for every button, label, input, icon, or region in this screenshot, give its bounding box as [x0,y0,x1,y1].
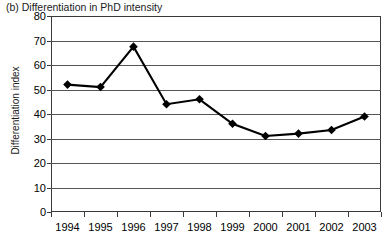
x-tick-label: 2002 [319,221,343,233]
chart-title: (b) Differentiation in PhD intensity [6,1,162,13]
x-tick-label: 1997 [154,221,178,233]
chart-figure: (b) Differentiation in PhD intensity Dif… [0,0,386,250]
data-point-marker [162,100,171,109]
data-point-marker [294,129,303,138]
x-tick-mark [51,212,52,217]
y-tick-label: 60 [34,59,46,71]
x-tick-mark [249,212,250,217]
x-tick-label: 2000 [253,221,277,233]
x-tick-mark [315,212,316,217]
y-tick-label: 0 [40,206,46,218]
data-point-marker [261,132,270,141]
y-tick-label: 10 [34,182,46,194]
series-line-chart [51,16,381,212]
x-tick-label: 1999 [220,221,244,233]
series-polyline [68,47,365,136]
x-tick-label: 1995 [88,221,112,233]
y-axis-label: Differentiation index [10,41,21,181]
y-tick-label: 40 [34,108,46,120]
y-tick-label: 70 [34,35,46,47]
x-tick-mark [348,212,349,217]
y-tick-label: 50 [34,84,46,96]
x-tick-mark [183,212,184,217]
series-markers [63,42,369,140]
x-tick-mark [150,212,151,217]
x-tick-label: 2003 [352,221,376,233]
y-tick-label: 20 [34,157,46,169]
data-point-marker [360,112,369,121]
x-tick-mark [84,212,85,217]
data-point-marker [327,126,336,135]
x-tick-mark [282,212,283,217]
x-tick-mark [381,212,382,217]
x-tick-label: 1998 [187,221,211,233]
x-tick-mark [117,212,118,217]
x-tick-label: 1996 [121,221,145,233]
x-tick-label: 1994 [55,221,79,233]
y-tick-label: 80 [34,10,46,22]
plot-wrapper: 01020304050607080 1994199519961997199819… [51,16,381,212]
y-tick-label: 30 [34,133,46,145]
data-point-marker [63,80,72,89]
x-tick-label: 2001 [286,221,310,233]
x-tick-mark [216,212,217,217]
